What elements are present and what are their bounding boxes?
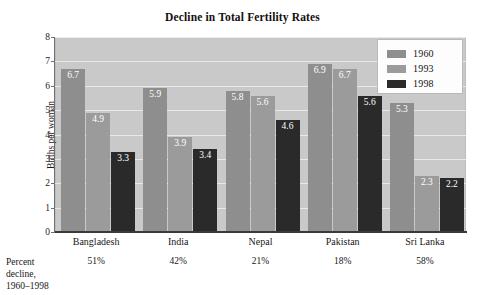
bar-group: 5.85.64.6 <box>226 37 300 232</box>
bar-group: 6.74.93.3 <box>61 37 135 232</box>
bar: 2.3 <box>415 176 439 232</box>
bar-value-label: 5.3 <box>390 105 414 115</box>
bar: 5.6 <box>358 96 382 233</box>
legend-entry: 1960 <box>387 47 434 60</box>
y-axis-tick-label: 6 <box>45 81 50 91</box>
bar-value-label: 5.8 <box>226 93 250 103</box>
bar-group: 5.93.93.4 <box>143 37 217 232</box>
legend-swatch <box>387 80 406 88</box>
percent-decline-caption-line-2: decline, <box>6 268 49 280</box>
y-axis-tick-label: 8 <box>45 32 50 42</box>
bar: 2.2 <box>440 178 464 232</box>
percent-decline-value: 51% <box>55 256 137 266</box>
y-axis-tick-label: 7 <box>45 56 50 66</box>
bar: 5.6 <box>251 96 275 233</box>
bar-value-label: 5.9 <box>143 90 167 100</box>
chart-title: Decline in Total Fertility Rates <box>0 11 485 23</box>
y-axis-line <box>54 37 55 232</box>
bar: 3.9 <box>168 137 192 232</box>
y-axis-tick-label: 2 <box>45 178 50 188</box>
bar-value-label: 2.3 <box>415 178 439 188</box>
bar-value-label: 2.2 <box>440 180 464 190</box>
bar-group: 6.96.75.6 <box>308 37 382 232</box>
bar-value-label: 3.4 <box>193 151 217 161</box>
bar-value-label: 6.9 <box>308 66 332 76</box>
x-axis-category-label: India <box>137 236 219 247</box>
y-axis-tick-label: 1 <box>45 203 50 213</box>
bar: 3.3 <box>111 152 135 232</box>
bar-value-label: 5.6 <box>358 98 382 108</box>
bar-value-label: 3.3 <box>111 154 135 164</box>
bar: 4.9 <box>86 113 110 232</box>
bar-value-label: 5.6 <box>251 98 275 108</box>
percent-decline-caption-line-1: Percent <box>6 256 49 268</box>
legend-entry: 1993 <box>387 62 434 75</box>
percent-decline-value: 18% <box>302 256 384 266</box>
legend-entry: 1998 <box>387 77 434 90</box>
y-axis-tick-label: 0 <box>45 227 50 237</box>
chart-legend: 196019931998 <box>377 39 463 94</box>
plot-area: 012345678 Births per woman 6.74.93.35.93… <box>55 37 466 232</box>
fertility-rate-bar-chart: Decline in Total Fertility Rates 0123456… <box>0 0 485 295</box>
bar-value-label: 6.7 <box>333 71 357 81</box>
x-axis-line <box>55 231 467 233</box>
legend-swatch <box>387 50 406 58</box>
percent-decline-value: 58% <box>384 256 466 266</box>
percent-decline-caption-line-3: 1960–1998 <box>6 280 49 292</box>
legend-swatch <box>387 65 406 73</box>
bar-value-label: 4.6 <box>276 122 300 132</box>
bar: 6.7 <box>61 69 85 232</box>
legend-label: 1960 <box>413 48 434 59</box>
x-axis-category-label: Bangladesh <box>55 236 137 247</box>
bar-value-label: 3.9 <box>168 139 192 149</box>
percent-decline-value: 42% <box>137 256 219 266</box>
bar: 4.6 <box>276 120 300 232</box>
legend-label: 1998 <box>413 78 434 89</box>
percent-decline-caption: Percent decline, 1960–1998 <box>6 256 49 293</box>
x-axis-category-label: Nepal <box>219 236 301 247</box>
bar: 3.4 <box>193 149 217 232</box>
x-axis-category-label: Sri Lanka <box>384 236 466 247</box>
bar: 6.9 <box>308 64 332 232</box>
percent-decline-value: 21% <box>219 256 301 266</box>
bar: 5.9 <box>143 88 167 232</box>
x-axis-category-label: Pakistan <box>302 236 384 247</box>
bar: 5.3 <box>390 103 414 232</box>
legend-label: 1993 <box>413 63 434 74</box>
bar: 5.8 <box>226 91 250 232</box>
bar-value-label: 4.9 <box>86 115 110 125</box>
bar: 6.7 <box>333 69 357 232</box>
bar-value-label: 6.7 <box>61 71 85 81</box>
